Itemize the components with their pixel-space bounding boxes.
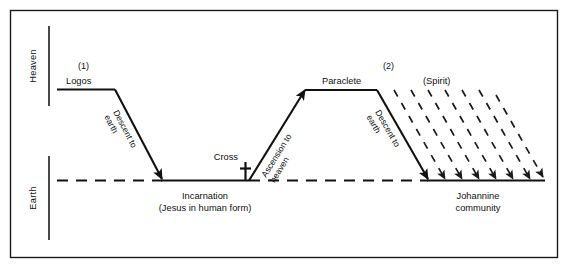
johannine-community-label-line2: community — [456, 203, 501, 213]
heaven-axis-label: Heaven — [28, 49, 38, 82]
earth-axis-label: Earth — [28, 186, 38, 209]
incarnation-label-line1: Incarnation — [182, 191, 228, 201]
stage-two-number: (2) — [383, 61, 394, 71]
incarnation-label-line2: (Jesus in human form) — [159, 203, 251, 213]
stage-one-number: (1) — [78, 61, 89, 71]
descent-ascent-diagram: Heaven Earth (1) Logos Descent to earth … — [0, 0, 568, 268]
diagram-root: Heaven Earth (1) Logos Descent to earth … — [0, 0, 568, 268]
paraclete-label: Paraclete — [322, 76, 361, 86]
spirit-label: (Spirit) — [423, 76, 450, 86]
johannine-community-label-line1: Johannine — [457, 191, 500, 201]
cross-label: Cross — [214, 152, 239, 162]
logos-label: Logos — [66, 76, 92, 86]
